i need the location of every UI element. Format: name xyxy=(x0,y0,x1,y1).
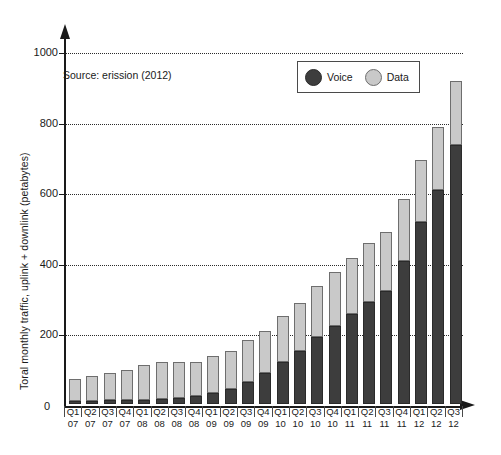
bar-segment-voice xyxy=(138,400,150,404)
bar-group xyxy=(294,303,306,404)
bar-group xyxy=(242,340,254,404)
y-axis-tick xyxy=(59,124,65,125)
bar-segment-data xyxy=(190,362,202,397)
legend-label-voice: Voice xyxy=(327,71,353,83)
bar-segment-data xyxy=(380,232,392,291)
chart-legend: Voice Data xyxy=(297,61,420,93)
bar-segment-data xyxy=(156,362,168,399)
bar-group xyxy=(86,376,98,404)
bar-segment-voice xyxy=(242,382,254,404)
legend-item-voice: Voice xyxy=(298,69,353,86)
bar-group xyxy=(398,199,410,404)
bar-group xyxy=(311,286,323,404)
bar-group xyxy=(207,356,219,404)
bar-group xyxy=(415,160,427,404)
bar-segment-data xyxy=(207,356,219,393)
bar-segment-data xyxy=(294,303,306,351)
bar-group xyxy=(104,373,116,404)
bar-segment-data xyxy=(259,331,271,373)
y-axis-tick-label: 600 xyxy=(14,187,58,199)
bar-group xyxy=(69,379,81,404)
data-circle-icon xyxy=(365,69,382,86)
bar-segment-data xyxy=(450,81,462,145)
bar-segment-voice xyxy=(329,326,341,404)
bar-group xyxy=(380,232,392,404)
bar-segment-voice xyxy=(225,389,237,404)
bar-segment-voice xyxy=(259,373,271,404)
y-axis-zero-label: 0 xyxy=(44,400,50,412)
bar-segment-voice xyxy=(190,396,202,404)
bar-group xyxy=(450,81,462,404)
bar-group xyxy=(346,258,358,404)
y-axis-tick xyxy=(59,265,65,266)
bar-segment-data xyxy=(415,160,427,222)
bar-segment-data xyxy=(225,351,237,389)
x-axis-tick xyxy=(462,406,463,417)
bar-group xyxy=(432,127,444,404)
bar-segment-voice xyxy=(277,362,289,404)
y-axis-tick-label: 800 xyxy=(14,117,58,129)
bar-group xyxy=(190,362,202,404)
voice-circle-icon xyxy=(305,69,322,86)
bar-segment-voice xyxy=(86,401,98,404)
bar-segment-data xyxy=(277,316,289,362)
bar-segment-voice xyxy=(311,337,323,404)
bar-segment-voice xyxy=(121,400,133,404)
bar-segment-voice xyxy=(415,222,427,404)
legend-item-data: Data xyxy=(353,69,409,86)
bar-segment-voice xyxy=(363,302,375,404)
bar-segment-voice xyxy=(398,261,410,404)
bar-group xyxy=(138,365,150,404)
bar-segment-voice xyxy=(450,145,462,404)
bar-segment-voice xyxy=(69,401,81,404)
bar-segment-voice xyxy=(294,351,306,404)
y-axis-tick-label: 400 xyxy=(14,258,58,270)
bar-segment-data xyxy=(138,365,150,400)
y-axis-tick xyxy=(59,53,65,54)
bar-group xyxy=(173,362,185,404)
bar-group xyxy=(225,351,237,404)
bar-group xyxy=(277,316,289,404)
bar-segment-voice xyxy=(173,398,185,404)
bar-group xyxy=(363,243,375,404)
bar-segment-voice xyxy=(207,393,219,404)
bar-group xyxy=(329,272,341,404)
bar-segment-data xyxy=(363,243,375,301)
y-axis-tick-label: 1000 xyxy=(14,46,58,58)
bar-segment-data xyxy=(311,286,323,337)
bar-segment-voice xyxy=(380,291,392,404)
bar-segment-data xyxy=(398,199,410,261)
bar-segment-data xyxy=(104,373,116,401)
bar-segment-data xyxy=(121,370,133,400)
bar-segment-voice xyxy=(156,399,168,404)
y-axis-tick xyxy=(59,335,65,336)
bar-segment-voice xyxy=(432,190,444,404)
bar-segment-voice xyxy=(104,400,116,404)
bar-segment-voice xyxy=(346,314,358,404)
y-axis-tick-label: 200 xyxy=(14,328,58,340)
bar-group xyxy=(121,370,133,404)
y-axis-tick xyxy=(59,194,65,195)
bar-group xyxy=(259,331,271,404)
y-axis-tick-labels: 2004006008001000 xyxy=(8,30,58,408)
bar-segment-data xyxy=(329,272,341,326)
bar-segment-data xyxy=(86,376,98,401)
x-axis-tick-labels: Q107Q207Q307Q407Q108Q208Q308Q408Q109Q209… xyxy=(64,406,469,452)
bar-segment-data xyxy=(69,379,81,401)
bar-segment-data xyxy=(432,127,444,191)
chart-container: Toral monthly traffic, uplink + downlink… xyxy=(0,0,501,455)
source-note: Source: erission (2012) xyxy=(63,69,172,81)
legend-label-data: Data xyxy=(387,71,409,83)
bar-segment-data xyxy=(242,340,254,382)
bar-group xyxy=(156,362,168,404)
bar-segment-data xyxy=(173,362,185,398)
bar-segment-data xyxy=(346,258,358,314)
